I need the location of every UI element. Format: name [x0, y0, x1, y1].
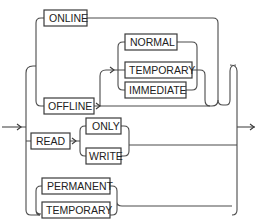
- tablespace-type-branch: [36, 186, 42, 215]
- read-options-branch: [76, 126, 86, 156]
- write-box: WRITE: [86, 148, 123, 164]
- svg-text:READ: READ: [36, 135, 66, 147]
- immediate-box: IMMEDIATE: [125, 82, 187, 98]
- svg-text:ONLINE: ONLINE: [49, 12, 88, 24]
- exit-arrow-icon: [237, 124, 255, 130]
- svg-text:OFFLINE: OFFLINE: [48, 100, 92, 112]
- syntax-diagram: ONLINE OFFLINE NORMAL TEMPORARY IMMEDIAT…: [0, 0, 259, 221]
- tablespace-type-merge: [110, 186, 232, 215]
- offline-options-branch: [118, 42, 125, 90]
- svg-text:NORMAL: NORMAL: [130, 36, 175, 48]
- normal-box: NORMAL: [125, 34, 177, 50]
- temporary-offline-box: TEMPORARY: [125, 62, 195, 78]
- permanent-box: PERMANENT: [42, 178, 114, 194]
- svg-text:ONLY: ONLY: [92, 120, 120, 132]
- svg-text:TEMPORARY: TEMPORARY: [129, 64, 195, 76]
- offline-box: OFFLINE: [44, 98, 94, 114]
- svg-text:WRITE: WRITE: [89, 150, 123, 162]
- online-box: ONLINE: [44, 10, 88, 26]
- svg-text:TEMPORARY: TEMPORARY: [46, 204, 112, 216]
- main-right-merge: [230, 65, 237, 215]
- svg-text:PERMANENT: PERMANENT: [47, 180, 114, 192]
- read-box: READ: [31, 133, 70, 149]
- read-options-merge: [121, 126, 237, 156]
- svg-text:IMMEDIATE: IMMEDIATE: [129, 84, 187, 96]
- online-offline-branch: [36, 18, 44, 106]
- temporary-box: TEMPORARY: [42, 202, 112, 218]
- only-box: ONLY: [86, 118, 121, 134]
- entry-arrow-icon: [2, 124, 22, 130]
